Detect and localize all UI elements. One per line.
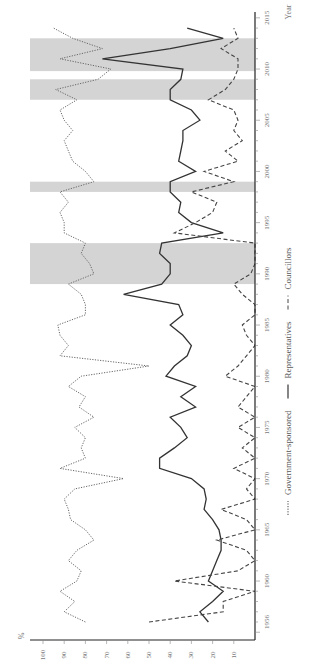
value-tick-label: 50 [145,651,153,659]
value-axis-unit: % [17,632,26,639]
legend-label: Councillors [283,247,293,289]
shaded-period [30,79,255,99]
year-tick-label: 2010 [263,62,271,77]
year-tick-label: 1980 [263,369,271,384]
legend-label: Government-sponsored [283,410,293,495]
year-tick-label: 2000 [263,164,271,179]
value-tick-label: 60 [124,651,132,659]
year-tick-label: 1965 [263,522,271,537]
year-tick-label: 1970 [263,471,271,486]
axes: 1956196019651970197519801985199019952000… [17,4,293,660]
series-councillors [149,28,255,622]
year-tick-label: 1975 [263,420,271,435]
value-tick-label: 30 [187,651,195,659]
year-tick-label: 2005 [263,113,271,128]
value-tick-label: 10 [230,651,238,659]
value-tick-label: 70 [103,651,111,659]
year-tick-label: 1956 [263,615,271,630]
shaded-period [30,38,255,71]
series-lines [54,28,255,622]
value-tick-label: 100 [39,649,47,660]
value-tick-label: 20 [209,651,217,659]
value-tick-label: 40 [166,651,174,659]
year-tick-label: 1995 [263,215,271,230]
year-axis-title: Year [284,4,293,19]
rotated-line-chart: 1956196019651970197519801985199019952000… [0,0,312,667]
year-tick-label: 2015 [263,10,271,25]
year-tick-label: 1985 [263,318,271,333]
legend: Government-sponsoredRepresentativesCounc… [283,247,293,515]
value-tick-label: 80 [81,651,89,659]
series-government-sponsored [54,28,149,622]
legend-label: Representatives [283,321,293,378]
shaded-periods [30,38,255,284]
year-tick-label: 1960 [263,574,271,589]
shaded-period [30,243,255,284]
year-tick-label: 1990 [263,266,271,281]
series-representatives [102,28,223,622]
value-tick-label: 90 [60,651,68,659]
